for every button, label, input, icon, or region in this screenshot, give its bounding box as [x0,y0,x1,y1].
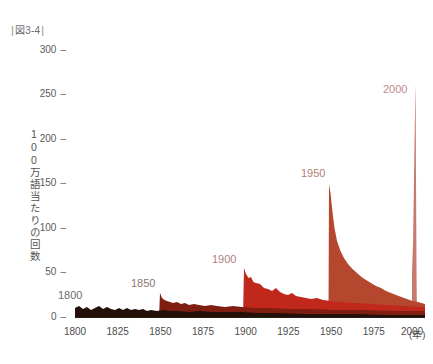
y-tick-200: 200– [30,133,66,144]
area-layer-1950 [328,184,425,318]
x-tick-1925: 1925 [266,326,310,337]
x-tick-1875: 1875 [181,326,225,337]
figure-number-label: |図3-4| [10,22,45,37]
annotation-1800: 1800 [58,289,82,301]
area-layer-2000 [412,84,417,318]
x-tick-1950: 1950 [309,326,353,337]
x-tick-1850: 1850 [138,326,182,337]
annotation-1900: 1900 [212,253,236,265]
chart-plot-area [75,50,425,318]
y-tick-50: 50– [30,266,66,277]
y-tick-300: 300– [30,44,66,55]
bracket-right-glyph: | [40,24,45,36]
annotation-1850: 1850 [131,277,155,289]
area-layers [75,84,425,318]
x-axis-unit-label: (年) [409,327,425,341]
y-tick-250: 250– [30,88,66,99]
x-tick-1800: 1800 [53,326,97,337]
area-chart-svg [75,50,425,318]
annotation-1950: 1950 [301,167,325,179]
figure-number-text: 図3-4 [15,25,40,36]
y-tick-150: 150– [30,177,66,188]
y-tick-0: 0– [30,311,66,322]
annotation-2000: 2000 [383,83,407,95]
y-axis-label: 100万語当たりの回数 [26,128,40,263]
y-tick-100: 100– [30,222,66,233]
x-tick-1825: 1825 [96,326,140,337]
x-tick-1900: 1900 [224,326,268,337]
figure-container: |図3-4| 100万語当たりの回数 300– 250– 200– 150– 1… [0,0,433,364]
